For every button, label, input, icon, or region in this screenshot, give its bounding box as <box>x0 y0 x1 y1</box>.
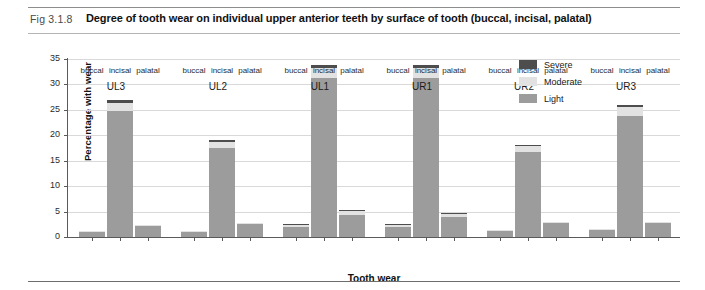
legend-item-moderate: Moderate <box>519 75 582 88</box>
gridline <box>68 212 680 213</box>
x-tick-mark <box>222 237 223 241</box>
legend-swatch-moderate <box>519 77 537 86</box>
x-tick-mark <box>92 237 93 241</box>
bar-ul1-palatal[interactable] <box>339 210 365 237</box>
x-tick-mark <box>426 237 427 241</box>
legend-item-light: Light <box>519 92 582 105</box>
x-tick-mark <box>602 237 603 241</box>
x-axis-line <box>67 237 680 238</box>
y-tick-mark <box>64 59 68 60</box>
bar-ur3-buccal[interactable] <box>589 229 615 237</box>
bar-ur2-palatal[interactable] <box>543 222 569 237</box>
bar-ul3-palatal[interactable] <box>135 225 161 237</box>
x-tick-mark <box>250 237 251 241</box>
gridline <box>68 110 680 111</box>
bar-ur1-palatal[interactable] <box>441 213 467 237</box>
header-rule-bottom <box>28 33 680 34</box>
legend-swatch-severe <box>519 60 537 69</box>
legend-item-severe: Severe <box>519 58 582 71</box>
x-tick-mark <box>528 237 529 241</box>
x-tick-mark <box>556 237 557 241</box>
bar-ur1-buccal[interactable] <box>385 224 411 237</box>
figure-number: Fig 3.1.8 <box>30 13 73 25</box>
x-surface-label: palatal <box>635 66 681 75</box>
x-surface-label: palatal <box>125 66 171 75</box>
y-tick-mark <box>64 135 68 136</box>
bar-ul3-incisal[interactable] <box>107 100 133 237</box>
y-tick-label: 35 <box>36 53 60 63</box>
bar-ur3-palatal[interactable] <box>645 222 671 237</box>
bar-segment-light <box>441 217 467 237</box>
x-tick-mark <box>500 237 501 241</box>
x-tick-mark <box>120 237 121 241</box>
gridline <box>68 186 680 187</box>
bar-segment-light <box>617 116 643 237</box>
gridline <box>68 135 680 136</box>
x-tick-mark <box>148 237 149 241</box>
bar-segment-light <box>413 78 439 237</box>
y-tick-label: 15 <box>36 155 60 165</box>
footer-rule <box>28 281 680 282</box>
bar-segment-moderate <box>617 107 643 116</box>
chart-legend: Severe Moderate Light <box>519 58 582 109</box>
y-tick-label: 0 <box>36 231 60 241</box>
plot-area: Percentage with wear Tooth wear 05101520… <box>68 59 680 237</box>
bar-segment-light <box>237 224 263 237</box>
gridline <box>68 59 680 60</box>
bar-ur2-incisal[interactable] <box>515 145 541 237</box>
y-tick-label: 20 <box>36 129 60 139</box>
y-tick-mark <box>64 161 68 162</box>
y-tick-label: 5 <box>36 206 60 216</box>
bar-ur3-incisal[interactable] <box>617 105 643 237</box>
header-rule-top <box>28 7 680 8</box>
x-tick-mark <box>454 237 455 241</box>
bar-segment-moderate <box>107 103 133 111</box>
x-surface-label: palatal <box>329 66 375 75</box>
legend-label-light: Light <box>544 94 564 104</box>
bar-segment-light <box>283 227 309 237</box>
bar-ul1-buccal[interactable] <box>283 224 309 237</box>
x-tick-mark <box>658 237 659 241</box>
bar-ul2-incisal[interactable] <box>209 140 235 237</box>
bar-segment-light <box>515 152 541 237</box>
legend-label-moderate: Moderate <box>544 77 582 87</box>
legend-label-severe: Severe <box>544 60 573 70</box>
x-tick-mark <box>630 237 631 241</box>
bar-segment-light <box>339 215 365 237</box>
bar-segment-light <box>543 223 569 237</box>
bar-segment-light <box>311 78 337 237</box>
x-axis-title: Tooth wear <box>68 273 680 284</box>
bar-segment-light <box>645 223 671 237</box>
x-tick-mark <box>352 237 353 241</box>
x-tick-mark <box>296 237 297 241</box>
gridline <box>68 161 680 162</box>
figure-title: Degree of tooth wear on individual upper… <box>86 12 592 24</box>
y-tick-mark <box>64 237 68 238</box>
y-tick-mark <box>64 212 68 213</box>
x-tick-mark <box>194 237 195 241</box>
y-tick-label: 10 <box>36 180 60 190</box>
y-tick-label: 25 <box>36 104 60 114</box>
bar-segment-light <box>589 230 615 237</box>
x-tick-mark <box>398 237 399 241</box>
bar-ur2-buccal[interactable] <box>487 230 513 237</box>
bar-segment-light <box>107 111 133 237</box>
bar-segment-light <box>385 227 411 237</box>
bar-segment-light <box>209 148 235 238</box>
y-tick-mark <box>64 186 68 187</box>
bar-segment-light <box>135 226 161 237</box>
legend-swatch-light <box>519 94 537 103</box>
y-tick-mark <box>64 110 68 111</box>
x-surface-label: palatal <box>227 66 273 75</box>
x-group-label-ur3: UR3 <box>566 81 686 92</box>
x-surface-label: palatal <box>431 66 477 75</box>
figure-page: Fig 3.1.8 Degree of tooth wear on indivi… <box>0 0 705 290</box>
bar-ul2-palatal[interactable] <box>237 223 263 237</box>
x-tick-mark <box>324 237 325 241</box>
